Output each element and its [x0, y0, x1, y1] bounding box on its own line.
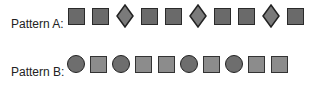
square-icon — [203, 56, 220, 73]
pattern-b-row: Pattern B: — [0, 48, 320, 78]
circle-icon — [67, 55, 85, 73]
square-icon — [141, 8, 158, 25]
square-icon — [92, 8, 109, 25]
pattern-b-label: Pattern B: — [11, 65, 64, 79]
square-icon — [90, 56, 107, 73]
square-icon — [158, 56, 175, 73]
square-icon — [68, 8, 85, 25]
circle-icon — [112, 55, 130, 73]
diamond-icon — [189, 4, 207, 28]
square-icon — [135, 56, 152, 73]
circle-icon — [225, 55, 243, 73]
pattern-a-row: Pattern A: — [0, 0, 320, 30]
square-icon — [271, 56, 288, 73]
square-icon — [238, 8, 255, 25]
square-icon — [165, 8, 182, 25]
pattern-a-label: Pattern A: — [11, 17, 64, 31]
square-icon — [287, 8, 304, 25]
square-icon — [214, 8, 231, 25]
diamond-icon — [116, 4, 134, 28]
circle-icon — [180, 55, 198, 73]
square-icon — [248, 56, 265, 73]
diamond-icon — [262, 4, 280, 28]
